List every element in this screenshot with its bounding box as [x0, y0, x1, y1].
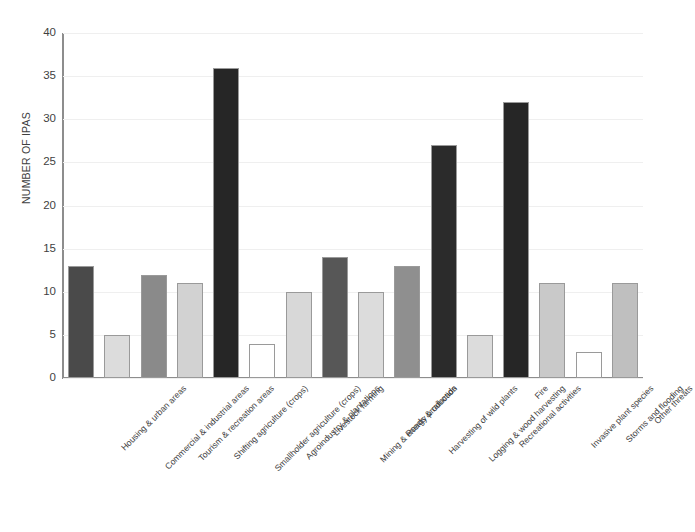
bar[interactable]	[503, 102, 529, 378]
bar[interactable]	[286, 292, 312, 378]
bars-layer	[63, 33, 643, 378]
bar[interactable]	[394, 266, 420, 378]
bar[interactable]	[177, 283, 203, 378]
y-tick-label: 30	[22, 113, 56, 125]
y-tick-label: 25	[22, 156, 56, 168]
bar[interactable]	[612, 283, 638, 378]
y-tick-label: 35	[22, 70, 56, 82]
y-tick-label: 0	[22, 372, 56, 384]
bar[interactable]	[213, 68, 239, 379]
bar[interactable]	[467, 335, 493, 378]
bar[interactable]	[431, 145, 457, 378]
plot-area	[63, 33, 643, 378]
bar[interactable]	[141, 275, 167, 379]
bar[interactable]	[358, 292, 384, 378]
bar[interactable]	[68, 266, 94, 378]
bar[interactable]	[322, 257, 348, 378]
y-tick-label: 15	[22, 243, 56, 255]
bar[interactable]	[576, 352, 602, 378]
y-tick-label: 40	[22, 27, 56, 39]
y-tick-label: 10	[22, 286, 56, 298]
gridline	[63, 378, 643, 379]
y-tick-label: 5	[22, 329, 56, 341]
bar[interactable]	[249, 344, 275, 379]
bar[interactable]	[104, 335, 130, 378]
y-tick-label: 20	[22, 200, 56, 212]
x-tick-label: Roads & railroads	[404, 384, 459, 439]
y-axis-tick-labels: 4035302520151050	[20, 0, 56, 532]
bar[interactable]	[539, 283, 565, 378]
x-tick-label: Housing & urban areas	[120, 384, 189, 453]
